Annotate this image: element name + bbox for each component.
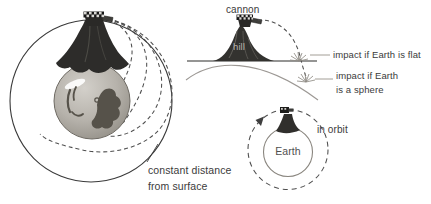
impact-splash-sphere bbox=[297, 73, 315, 82]
cannon-icon-small bbox=[237, 15, 263, 28]
orbit-arrowhead bbox=[256, 117, 265, 127]
earth-globe bbox=[54, 63, 130, 139]
flat-vs-sphere-diagram bbox=[186, 15, 333, 101]
impact-sphere-label-line2: is a sphere bbox=[336, 83, 398, 97]
mini-hill bbox=[276, 114, 300, 133]
impact-flat-label: impact if Earth is flat bbox=[333, 49, 421, 61]
curved-ground-line bbox=[186, 65, 318, 100]
cannon-icon bbox=[84, 12, 114, 27]
mini-cannon-icon bbox=[280, 107, 294, 113]
hill-label: hill bbox=[233, 41, 245, 53]
cannonball-trajectory bbox=[258, 20, 307, 79]
tall-mountain-orbit-diagram bbox=[10, 12, 172, 183]
constant-distance-note: constant distance from surface bbox=[148, 163, 231, 195]
constant-distance-note-line1: constant distance bbox=[148, 163, 231, 179]
earth-label: Earth bbox=[264, 145, 312, 159]
constant-distance-note-line2: from surface bbox=[148, 179, 231, 195]
impact-sphere-label-line1: impact if Earth bbox=[336, 69, 398, 83]
orbit-note-leader-line bbox=[147, 144, 158, 162]
in-orbit-label: in orbit bbox=[317, 123, 348, 136]
cannon-label: cannon bbox=[226, 3, 259, 16]
tall-mountain bbox=[56, 20, 129, 73]
newton-cannonball-figure: cannon hill impact if Earth is flat impa… bbox=[0, 0, 431, 204]
impact-sphere-label: impact if Earth is a sphere bbox=[336, 69, 398, 97]
